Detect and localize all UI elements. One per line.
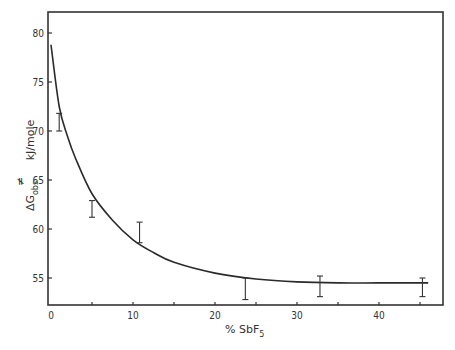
plot-frame bbox=[48, 12, 443, 305]
error-bar bbox=[89, 201, 95, 218]
x-tick-label: 30 bbox=[291, 310, 303, 321]
x-tick-label: 10 bbox=[127, 310, 139, 321]
fitted-curve bbox=[51, 45, 428, 283]
x-axis-label: % SbF5 bbox=[225, 323, 264, 339]
x-tick-label: 20 bbox=[209, 310, 221, 321]
y-tick-label: 55 bbox=[33, 273, 44, 284]
y-axis-label-quantity: ΔGobs ≠ bbox=[14, 177, 40, 211]
error-bar bbox=[317, 276, 323, 297]
svg-text:≠: ≠ bbox=[14, 177, 27, 186]
svg-text:% SbF5: % SbF5 bbox=[225, 323, 264, 339]
y-tick-label: 75 bbox=[33, 77, 44, 88]
chart: 010203040 556065707580 kJ/mole ΔGobs ≠ %… bbox=[0, 0, 455, 350]
error-bar bbox=[242, 278, 248, 300]
y-axis-label-units: kJ/mole bbox=[24, 119, 37, 160]
x-tick-label: 0 bbox=[48, 310, 54, 321]
error-bars bbox=[56, 113, 425, 299]
error-bar bbox=[137, 222, 143, 243]
x-tick-label: 40 bbox=[373, 310, 385, 321]
error-bar bbox=[419, 278, 425, 297]
y-tick-label: 60 bbox=[33, 224, 45, 235]
y-tick-label: 80 bbox=[33, 28, 45, 39]
